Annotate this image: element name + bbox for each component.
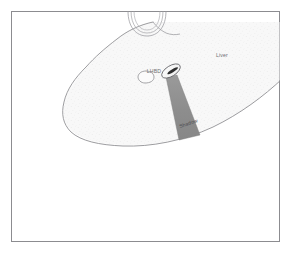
label-liver: Liver [216, 52, 228, 58]
figure-canvas: Liver LHBD Shadow [0, 0, 291, 256]
anatomical-diagram: Liver LHBD Shadow [0, 0, 291, 256]
label-lhbd: LHBD [147, 68, 162, 74]
